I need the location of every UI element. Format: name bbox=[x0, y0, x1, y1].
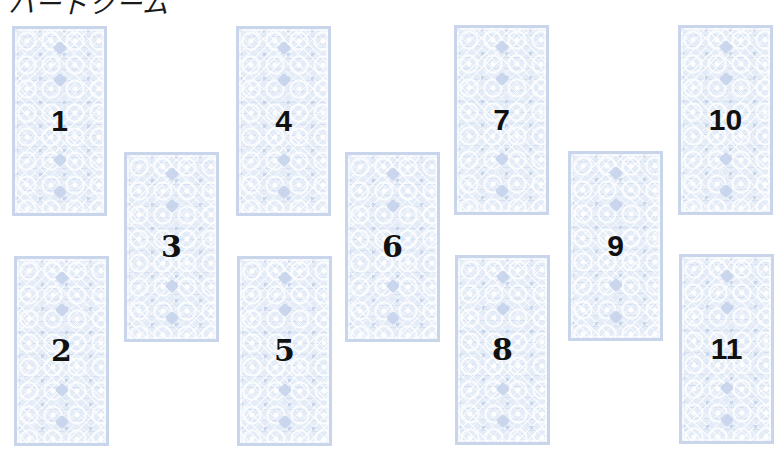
card-position-number: 10 bbox=[681, 100, 770, 140]
lace-motif-icon bbox=[54, 303, 68, 317]
lace-motif-icon bbox=[719, 301, 733, 315]
lace-motif-icon bbox=[164, 167, 178, 181]
lace-motif-icon bbox=[718, 72, 732, 86]
lace-motif-icon bbox=[276, 73, 290, 87]
card-9[interactable]: 9 bbox=[568, 151, 663, 341]
lace-motif-icon bbox=[52, 73, 66, 87]
card-8[interactable]: 8 bbox=[455, 255, 550, 445]
lace-motif-icon bbox=[719, 413, 733, 427]
lace-motif-icon bbox=[277, 303, 291, 317]
lace-motif-icon bbox=[718, 184, 732, 198]
lace-motif-icon bbox=[495, 382, 509, 396]
card-position-number: 2 bbox=[17, 331, 106, 371]
lace-motif-icon bbox=[276, 185, 290, 199]
lace-motif-icon bbox=[495, 270, 509, 284]
card-position-number: 7 bbox=[457, 100, 546, 140]
lace-motif-icon bbox=[608, 166, 622, 180]
lace-motif-icon bbox=[164, 311, 178, 325]
lace-motif-icon bbox=[164, 199, 178, 213]
lace-motif-icon bbox=[718, 152, 732, 166]
lace-motif-icon bbox=[719, 269, 733, 283]
card-1[interactable]: 1 bbox=[12, 26, 107, 216]
card-position-number: 3 bbox=[127, 227, 216, 267]
lace-motif-icon bbox=[54, 271, 68, 285]
card-11[interactable]: 11 bbox=[679, 254, 774, 444]
card-10[interactable]: 10 bbox=[678, 25, 773, 215]
lace-motif-icon bbox=[608, 198, 622, 212]
lace-motif-icon bbox=[495, 414, 509, 428]
lace-motif-icon bbox=[385, 199, 399, 213]
lace-motif-icon bbox=[54, 383, 68, 397]
lace-motif-icon bbox=[495, 302, 509, 316]
lace-motif-icon bbox=[718, 40, 732, 54]
lace-motif-icon bbox=[494, 40, 508, 54]
lace-motif-icon bbox=[164, 279, 178, 293]
card-3[interactable]: 3 bbox=[124, 152, 219, 342]
card-position-number: 11 bbox=[682, 329, 771, 369]
card-position-number: 1 bbox=[15, 101, 104, 141]
card-5[interactable]: 5 bbox=[237, 256, 332, 446]
card-7[interactable]: 7 bbox=[454, 25, 549, 215]
lace-motif-icon bbox=[277, 271, 291, 285]
card-2[interactable]: 2 bbox=[14, 256, 109, 446]
spread-title: ハードクーム bbox=[8, 0, 169, 19]
card-4[interactable]: 4 bbox=[236, 26, 331, 216]
lace-motif-icon bbox=[52, 41, 66, 55]
card-position-number: 5 bbox=[240, 331, 329, 371]
lace-motif-icon bbox=[608, 278, 622, 292]
lace-motif-icon bbox=[494, 152, 508, 166]
lace-motif-icon bbox=[385, 311, 399, 325]
lace-motif-icon bbox=[385, 279, 399, 293]
lace-motif-icon bbox=[494, 72, 508, 86]
card-position-number: 9 bbox=[571, 226, 660, 266]
lace-motif-icon bbox=[385, 167, 399, 181]
lace-motif-icon bbox=[277, 415, 291, 429]
card-position-number: 8 bbox=[458, 330, 547, 370]
lace-motif-icon bbox=[494, 184, 508, 198]
lace-motif-icon bbox=[54, 415, 68, 429]
lace-motif-icon bbox=[52, 185, 66, 199]
lace-motif-icon bbox=[719, 381, 733, 395]
card-6[interactable]: 6 bbox=[345, 152, 440, 342]
card-position-number: 4 bbox=[239, 101, 328, 141]
lace-motif-icon bbox=[277, 383, 291, 397]
card-position-number: 6 bbox=[348, 227, 437, 267]
lace-motif-icon bbox=[608, 310, 622, 324]
lace-motif-icon bbox=[52, 153, 66, 167]
lace-motif-icon bbox=[276, 41, 290, 55]
lace-motif-icon bbox=[276, 153, 290, 167]
